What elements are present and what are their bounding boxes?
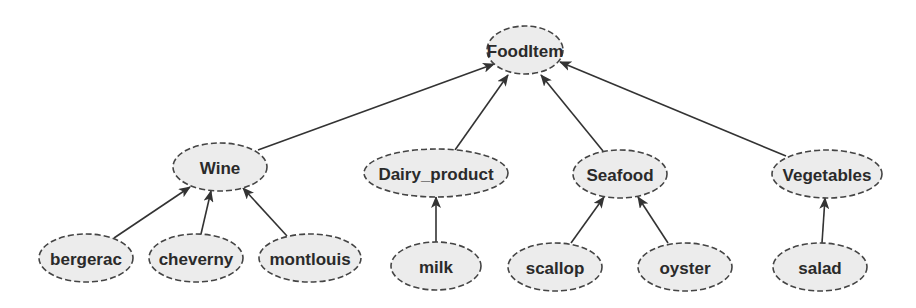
- node-label: salad: [798, 259, 841, 278]
- node-bergerac[interactable]: bergerac: [39, 234, 133, 282]
- node-label: scallop: [526, 259, 585, 278]
- edge-salad-to-vegetables: [822, 198, 825, 243]
- edge-scallop-to-seafood: [571, 197, 604, 243]
- node-fooditem[interactable]: FoodItem: [487, 26, 564, 74]
- node-wine[interactable]: Wine: [173, 143, 267, 191]
- node-label: bergerac: [50, 250, 122, 269]
- class-hierarchy-diagram: FoodItemWineDairy_productSeafoodVegetabl…: [0, 0, 916, 308]
- node-salad[interactable]: salad: [773, 243, 867, 291]
- edge-seafood-to-fooditem: [541, 75, 603, 151]
- node-label: FoodItem: [487, 42, 564, 61]
- edge-bergerac-to-wine: [114, 187, 190, 238]
- node-seafood[interactable]: Seafood: [573, 150, 667, 198]
- edge-vegetables-to-fooditem: [560, 62, 786, 156]
- nodes-layer: FoodItemWineDairy_productSeafoodVegetabl…: [39, 26, 882, 291]
- node-label: Wine: [200, 159, 240, 178]
- node-vegetables[interactable]: Vegetables: [772, 150, 882, 198]
- node-milk[interactable]: milk: [391, 242, 481, 290]
- edge-oyster-to-seafood: [638, 197, 668, 243]
- edge-montlouis-to-wine: [243, 188, 287, 236]
- node-label: cheverny: [159, 250, 234, 269]
- node-scallop[interactable]: scallop: [508, 243, 602, 291]
- node-oyster[interactable]: oyster: [638, 243, 732, 291]
- edge-dairy_product-to-fooditem: [455, 75, 508, 150]
- node-label: oyster: [659, 259, 710, 278]
- node-montlouis[interactable]: montlouis: [259, 234, 361, 282]
- node-label: Dairy_product: [378, 165, 494, 184]
- node-dairy-product[interactable]: Dairy_product: [364, 149, 508, 197]
- edge-wine-to-fooditem: [258, 64, 494, 150]
- edge-cheverny-to-wine: [201, 191, 211, 234]
- node-label: milk: [419, 258, 454, 277]
- node-label: Vegetables: [783, 166, 872, 185]
- node-label: montlouis: [269, 250, 350, 269]
- node-label: Seafood: [586, 166, 653, 185]
- node-cheverny[interactable]: cheverny: [149, 234, 243, 282]
